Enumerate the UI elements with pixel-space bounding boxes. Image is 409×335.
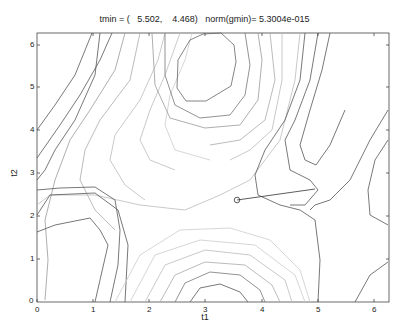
y-tick-label: 6 — [30, 40, 34, 49]
y-tick-label: 3 — [30, 168, 34, 177]
x-tick-label: 1 — [91, 305, 95, 314]
y-tick-label: 4 — [30, 125, 34, 134]
axis-ticks — [37, 33, 389, 302]
x-tick-label: 4 — [260, 305, 264, 314]
y-tick-label: 5 — [30, 82, 34, 91]
contour-plot — [0, 0, 409, 335]
x-tick-label: 0 — [35, 305, 39, 314]
x-tick-label: 2 — [147, 305, 151, 314]
y-axis-label: t2 — [9, 169, 19, 177]
y-tick-label: 0 — [29, 296, 33, 305]
x-axis-label: t1 — [201, 312, 209, 322]
y-tick-label: 2 — [30, 211, 34, 220]
y-tick-label: 1 — [30, 254, 34, 263]
plot-axes-box — [37, 33, 389, 302]
contour-lines — [37, 33, 388, 302]
x-tick-label: 6 — [372, 305, 376, 314]
x-tick-label: 5 — [316, 305, 320, 314]
